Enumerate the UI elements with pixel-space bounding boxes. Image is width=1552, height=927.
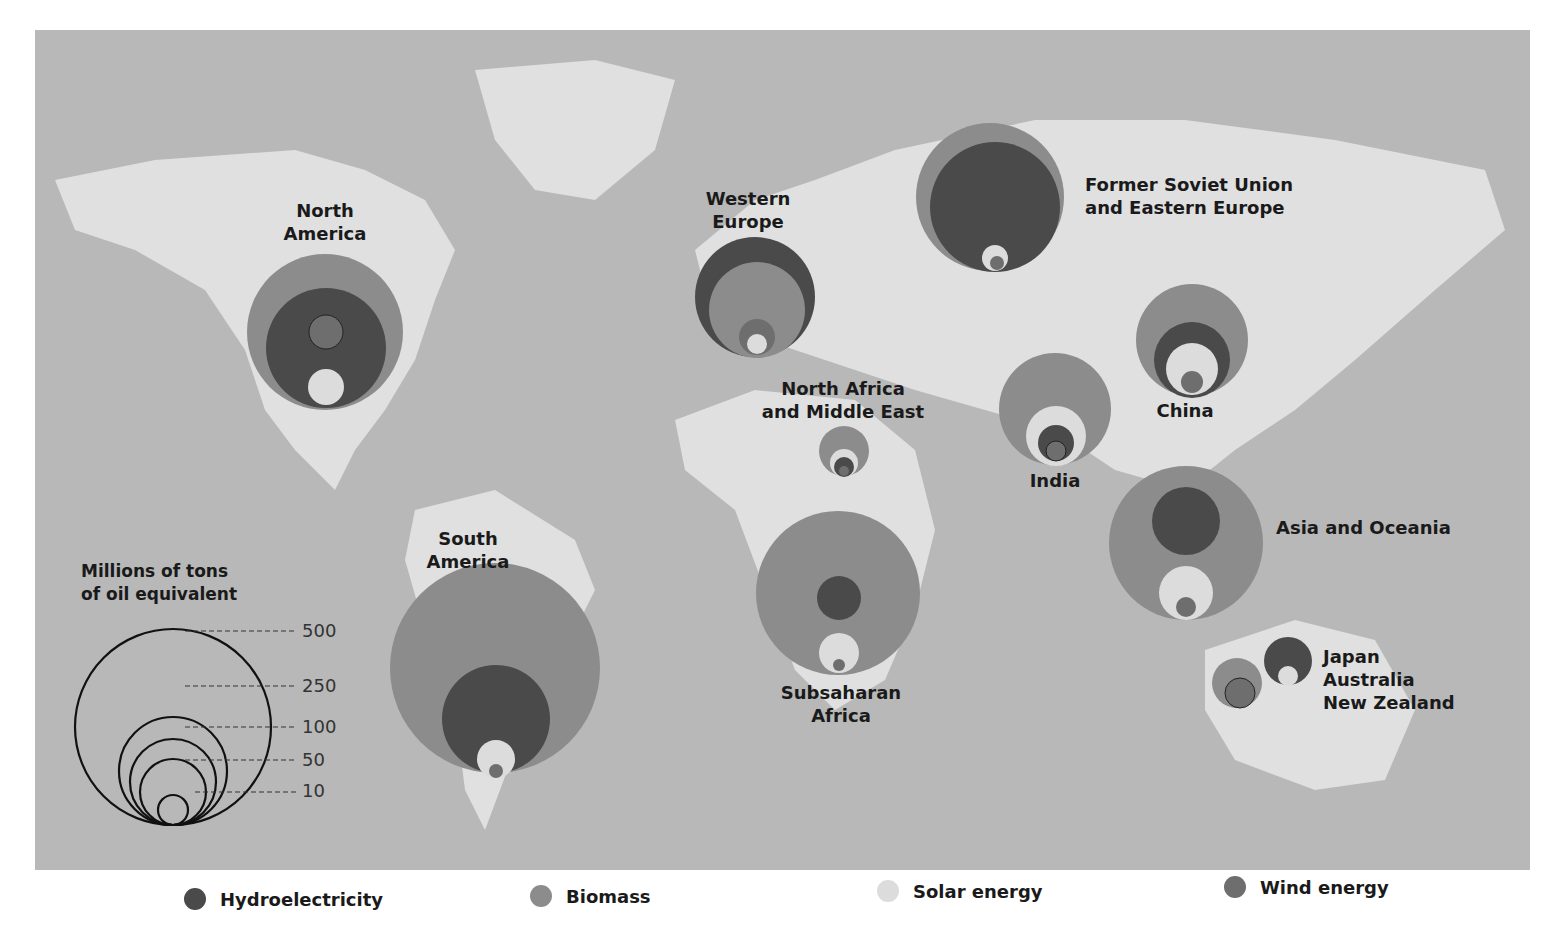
label-janz: Japan Australia New Zealand <box>1323 645 1455 714</box>
key-label: Hydroelectricity <box>220 889 383 910</box>
scale-label-250: 250 <box>302 675 336 696</box>
scale-label-100: 100 <box>302 716 336 737</box>
key-hydroelectricity: Hydroelectricity <box>184 888 383 910</box>
scale-label-500: 500 <box>302 620 336 641</box>
label-fsu: Former Soviet Union and Eastern Europe <box>1085 173 1293 219</box>
bubbles-north-america <box>247 254 403 410</box>
map-canvas <box>35 30 1530 870</box>
scale-label-10: 10 <box>302 780 325 801</box>
scale-legend-title: Millions of tons of oil equivalent <box>81 560 237 606</box>
bubbles-subsaharan-africa <box>756 511 920 675</box>
label-subsaharan-africa: Subsaharan Africa <box>781 681 901 727</box>
label-western-europe: Western Europe <box>706 187 791 233</box>
key-biomass: Biomass <box>530 885 651 907</box>
label-north-america: North America <box>284 199 367 245</box>
scale-label-50: 50 <box>302 749 325 770</box>
hydro-swatch-icon <box>184 888 206 910</box>
label-north-africa: North Africa and Middle East <box>762 377 924 423</box>
biomass-swatch-icon <box>530 885 552 907</box>
label-south-america: South America <box>427 527 510 573</box>
key-label: Solar energy <box>913 881 1043 902</box>
world-map <box>35 30 1530 870</box>
wind-swatch-icon <box>1224 876 1246 898</box>
key-label: Biomass <box>566 886 651 907</box>
label-china: China <box>1156 399 1213 422</box>
bubbles-south-america <box>390 563 600 778</box>
label-asia-oceania: Asia and Oceania <box>1276 516 1451 539</box>
key-wind: Wind energy <box>1224 876 1389 898</box>
bubbles-asia-oceania <box>1109 466 1263 620</box>
solar-swatch-icon <box>877 880 899 902</box>
label-india: India <box>1030 469 1081 492</box>
key-solar: Solar energy <box>877 880 1043 902</box>
key-label: Wind energy <box>1260 877 1389 898</box>
greenland-land <box>475 60 675 200</box>
bubbles-fsu <box>916 123 1064 272</box>
